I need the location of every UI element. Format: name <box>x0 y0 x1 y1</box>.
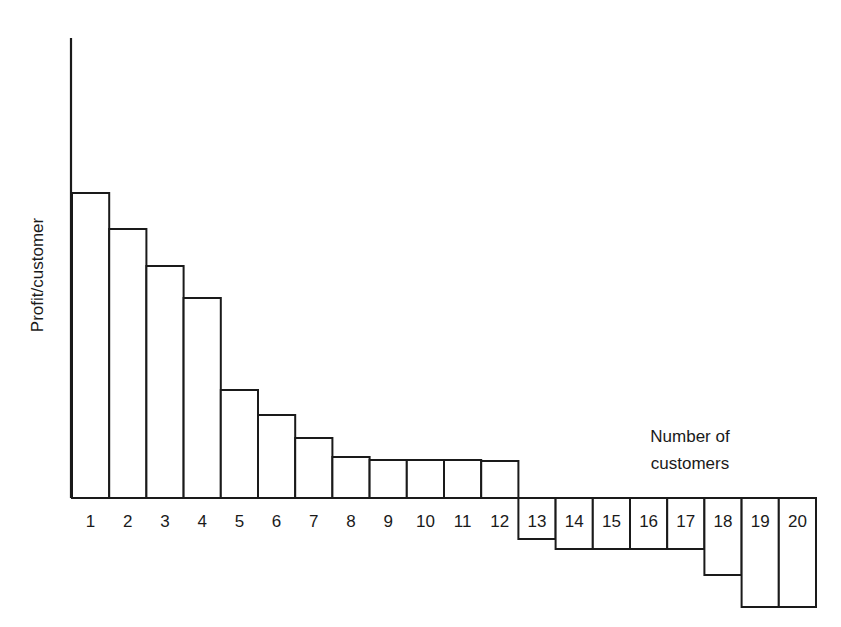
bar-2 <box>109 229 146 498</box>
bars-group <box>72 193 816 607</box>
bar-6 <box>258 415 295 498</box>
bar-4 <box>184 298 221 498</box>
x-tick-19: 19 <box>751 512 770 531</box>
x-tick-5: 5 <box>235 512 244 531</box>
x-tick-1: 1 <box>86 512 95 531</box>
x-tick-17: 17 <box>676 512 695 531</box>
bar-12 <box>481 461 518 498</box>
profit-per-customer-chart: 1234567891011121314151617181920 Profit/c… <box>0 0 841 627</box>
x-tick-9: 9 <box>383 512 392 531</box>
bar-5 <box>221 390 258 498</box>
x-tick-20: 20 <box>788 512 807 531</box>
x-tick-16: 16 <box>639 512 658 531</box>
bar-11 <box>444 460 481 498</box>
x-tick-2: 2 <box>123 512 132 531</box>
x-tick-4: 4 <box>197 512 206 531</box>
x-tick-7: 7 <box>309 512 318 531</box>
bar-8 <box>332 457 369 498</box>
x-tick-6: 6 <box>272 512 281 531</box>
x-tick-3: 3 <box>160 512 169 531</box>
bar-1 <box>72 193 109 498</box>
bar-10 <box>407 460 444 498</box>
x-tick-14: 14 <box>565 512 584 531</box>
x-tick-10: 10 <box>416 512 435 531</box>
bar-7 <box>295 438 332 498</box>
y-axis-label: Profit/customer <box>28 218 47 333</box>
x-tick-15: 15 <box>602 512 621 531</box>
bar-3 <box>146 266 183 498</box>
x-axis-label-line1: Number of <box>650 427 730 446</box>
x-tick-8: 8 <box>346 512 355 531</box>
x-tick-13: 13 <box>528 512 547 531</box>
x-tick-18: 18 <box>714 512 733 531</box>
x-tick-12: 12 <box>490 512 509 531</box>
x-tick-11: 11 <box>454 512 472 531</box>
x-axis-label-line2: customers <box>651 454 729 473</box>
bar-18 <box>704 498 741 575</box>
bar-9 <box>370 460 407 498</box>
